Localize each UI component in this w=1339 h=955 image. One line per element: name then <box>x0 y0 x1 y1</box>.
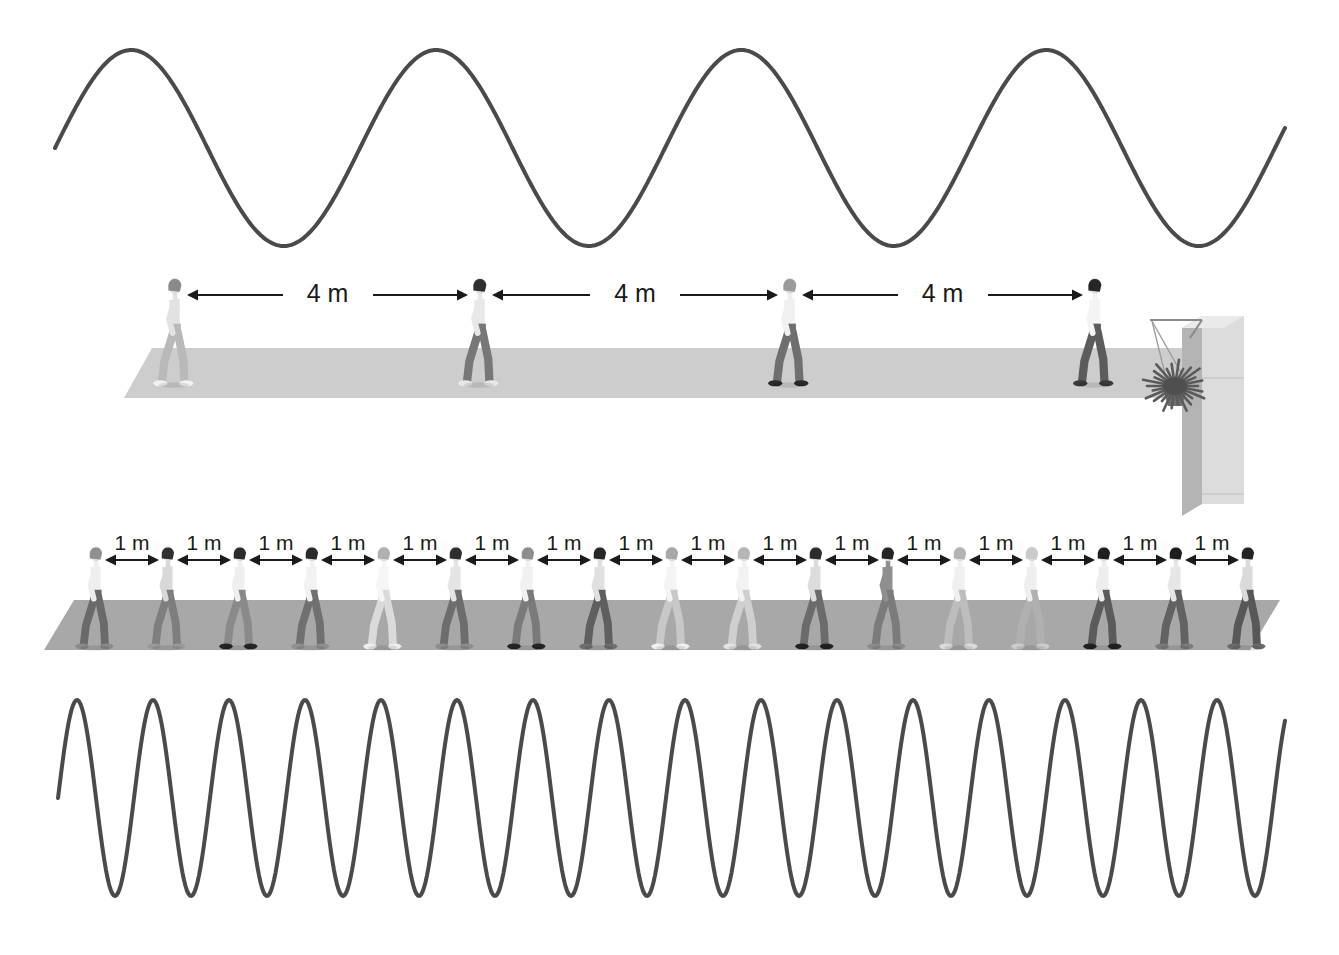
top-distance-label-1: 4 m <box>283 279 373 308</box>
bottom-arrow-10 <box>753 555 807 566</box>
bottom-distance-label-14: 1 m <box>1042 532 1094 553</box>
bottom-arrow-8 <box>609 555 663 566</box>
bottom-distance-label-8: 1 m <box>610 532 662 553</box>
bottom-arrow-2 <box>177 555 231 566</box>
bottom-arrow-7 <box>537 555 591 566</box>
wavelength-comparison-figure: 4 m4 m4 m 1 m1 m1 m1 m1 m1 m1 m1 m1 m1 m… <box>0 0 1339 955</box>
bottom-distance-label-16: 1 m <box>1186 532 1238 553</box>
bottom-arrow-1 <box>105 555 159 566</box>
bottom-distance-label-5: 1 m <box>394 532 446 553</box>
bottom-distance-label-15: 1 m <box>1114 532 1166 553</box>
bottom-measure-arrows <box>0 500 1339 670</box>
bottom-arrow-14 <box>1041 555 1095 566</box>
bottom-distance-label-13: 1 m <box>970 532 1022 553</box>
bottom-arrow-11 <box>825 555 879 566</box>
bottom-distance-label-10: 1 m <box>754 532 806 553</box>
bottom-distance-label-12: 1 m <box>898 532 950 553</box>
top-distance-label-3: 4 m <box>898 279 988 308</box>
bottom-distance-label-7: 1 m <box>538 532 590 553</box>
bottom-distance-label-9: 1 m <box>682 532 734 553</box>
top-measure-arrows <box>0 0 1339 420</box>
bottom-arrow-5 <box>393 555 447 566</box>
bottom-arrow-3 <box>249 555 303 566</box>
bottom-arrow-9 <box>681 555 735 566</box>
bottom-arrow-4 <box>321 555 375 566</box>
bottom-distance-label-11: 1 m <box>826 532 878 553</box>
top-distance-label-2: 4 m <box>590 279 680 308</box>
bottom-distance-label-4: 1 m <box>322 532 374 553</box>
bottom-distance-label-2: 1 m <box>178 532 230 553</box>
bottom-arrow-6 <box>465 555 519 566</box>
bottom-arrow-13 <box>969 555 1023 566</box>
bottom-distance-label-6: 1 m <box>466 532 518 553</box>
bottom-arrow-16 <box>1185 555 1239 566</box>
bottom-arrow-15 <box>1113 555 1167 566</box>
short-wavelength-wave <box>0 670 1339 920</box>
bottom-distance-label-3: 1 m <box>250 532 302 553</box>
bottom-distance-label-1: 1 m <box>106 532 158 553</box>
bottom-arrow-12 <box>897 555 951 566</box>
